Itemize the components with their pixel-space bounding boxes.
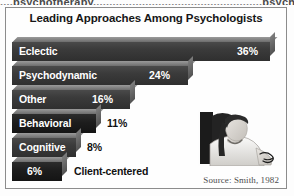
bar-label: Other xyxy=(19,90,46,109)
bar-chart-plot: Eclectic 36% Psychodynamic 24% Other 16%… xyxy=(6,33,287,189)
bar-label: Cognitive xyxy=(19,138,66,157)
bar-row: Cognitive 8% xyxy=(12,138,282,157)
bar-label: Psychodynamic xyxy=(19,66,97,85)
bar-label: Behavioral xyxy=(19,114,71,133)
bar-value: 16% xyxy=(92,90,113,109)
page-title: Leading Approaches Among Psychologists xyxy=(6,12,286,24)
bar-row: Behavioral 11% xyxy=(12,114,282,133)
page-text-bleed: ....psychotherapy.......................… xyxy=(0,0,294,5)
bar-row: Other 16% xyxy=(12,90,282,109)
bar-label: Eclectic xyxy=(19,42,58,61)
bar-label: Client-centered xyxy=(74,162,148,181)
bar-value: 24% xyxy=(149,66,170,85)
figure-page: ....psychotherapy.......................… xyxy=(0,0,294,196)
bar-value: 8% xyxy=(87,138,102,157)
bar-value: 6% xyxy=(27,162,42,181)
bar-value: 11% xyxy=(107,114,127,133)
source-note: Source: Smith, 1982 xyxy=(203,175,279,185)
bar-row: Eclectic 36% xyxy=(12,42,282,61)
bar-value: 36% xyxy=(237,42,258,61)
bar-row: Psychodynamic 24% xyxy=(12,66,282,85)
chart-figure: Leading Approaches Among Psychologists xyxy=(5,7,287,189)
